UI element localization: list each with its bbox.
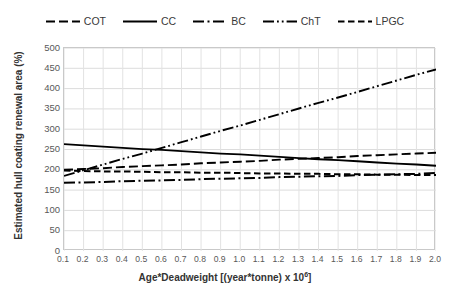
y-axis-tick-label: 100 [44, 204, 60, 215]
x-axis-tick-label: 1.0 [233, 253, 245, 265]
y-axis-tick-label: 350 [44, 102, 60, 113]
x-axis-tick-labels: 0.10.20.30.40.50.60.70.80.91.01.11.21.31… [63, 253, 435, 267]
x-axis-tick-label: 0.8 [194, 253, 206, 265]
y-axis-tick-label: 250 [44, 143, 60, 154]
x-axis-tick-label: 0.6 [155, 253, 167, 265]
series-line-cht [64, 70, 436, 176]
x-axis-tick-label: 0.1 [57, 253, 69, 265]
x-axis-tick-label: 0.7 [174, 253, 186, 265]
x-axis-tick-label: 1.2 [272, 253, 284, 265]
x-axis-tick-label: 1.1 [253, 253, 265, 265]
x-axis-tick-label: 1.8 [390, 253, 402, 265]
legend-label-bc: BC [231, 16, 246, 27]
x-axis-tick-label: 0.5 [135, 253, 147, 265]
x-axis-tick-label: 0.3 [96, 253, 108, 265]
y-axis-tick-labels: 050100150200250300350400450500 [26, 41, 60, 256]
legend-item-lpgc[interactable]: LPGC [338, 16, 405, 27]
x-axis-tick-label: 1.5 [331, 253, 343, 265]
y-axis-tick-label: 50 [49, 224, 60, 235]
legend-item-cot[interactable]: COT [46, 16, 106, 27]
series-line-lpgc [64, 171, 436, 175]
x-axis-tick-label: 1.7 [370, 253, 382, 265]
data-series-layer [64, 48, 436, 251]
legend-label-cc: CC [161, 16, 176, 27]
x-axis-tick-label: 0.9 [214, 253, 226, 265]
line-chart: COTCCBCChTLPGC Estimated hull coating re… [0, 0, 450, 300]
legend-swatch-lpgc [338, 16, 372, 27]
legend-item-bc[interactable]: BC [193, 16, 246, 27]
y-axis-tick-label: 400 [44, 82, 60, 93]
legend-swatch-cc [123, 16, 157, 27]
x-axis-tick-label: 1.4 [312, 253, 324, 265]
legend-label-cht: ChT [301, 16, 321, 27]
y-axis-title: Estimated hull coating renewal area (%) [13, 36, 24, 256]
plot-area [63, 47, 435, 250]
legend-swatch-cht [263, 16, 297, 27]
legend-item-cht[interactable]: ChT [263, 16, 321, 27]
y-axis-tick-label: 450 [44, 62, 60, 73]
legend-item-cc[interactable]: CC [123, 16, 176, 27]
x-axis-tick-label: 2.0 [429, 253, 441, 265]
legend-swatch-bc [193, 16, 227, 27]
y-axis-tick-label: 200 [44, 163, 60, 174]
x-axis-tick-label: 0.2 [77, 253, 89, 265]
x-axis-tick-label: 1.6 [351, 253, 363, 265]
y-axis-tick-label: 500 [44, 42, 60, 53]
x-axis-tick-label: 1.3 [292, 253, 304, 265]
legend-swatch-cot [46, 16, 80, 27]
x-axis-tick-label: 0.4 [116, 253, 128, 265]
y-axis-tick-label: 300 [44, 123, 60, 134]
x-axis-title: Age*Deadweight [(year*tonne) x 106] [0, 271, 450, 283]
x-axis-title-close: ] [308, 272, 311, 283]
legend-label-lpgc: LPGC [376, 16, 405, 27]
y-axis-tick-label: 150 [44, 184, 60, 195]
legend-label-cot: COT [84, 16, 106, 27]
chart-legend: COTCCBCChTLPGC [0, 10, 450, 32]
x-axis-title-text: Age*Deadweight [(year*tonne) x 10 [139, 272, 305, 283]
x-axis-tick-label: 1.9 [409, 253, 421, 265]
